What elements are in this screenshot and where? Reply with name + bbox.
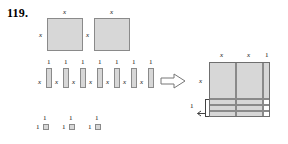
assembled-column-label: x xyxy=(247,52,250,59)
x-squared-tile-top-label: x xyxy=(110,9,113,16)
x-tile-side-label: x xyxy=(55,79,58,86)
x-squared-tile xyxy=(47,18,83,51)
x-tile xyxy=(148,68,154,88)
x-tile xyxy=(97,68,103,88)
bracket-label: 1 xyxy=(190,103,194,110)
x-tile-top-label: 1 xyxy=(132,59,136,66)
unit-tile-top-label: 1 xyxy=(43,115,47,122)
x-squared-tile-side-label: x xyxy=(86,32,89,39)
x-tile-top-label: 1 xyxy=(115,59,119,66)
x-tile xyxy=(46,68,52,88)
x-tile-side-label: x xyxy=(89,79,92,86)
x-tile xyxy=(80,68,86,88)
x-tile-side-label: x xyxy=(140,79,143,86)
x-tile-top-label: 1 xyxy=(81,59,85,66)
assembled-row-label: x xyxy=(199,78,202,85)
x-tile-top-label: 1 xyxy=(98,59,102,66)
x-squared-tile xyxy=(94,18,130,51)
assembled-rectangle: x x 1 x 1 xyxy=(209,62,277,120)
x-tile xyxy=(114,68,120,88)
x-squared-tile-top-label: x xyxy=(63,9,66,16)
unit-tile-top-label: 1 xyxy=(95,115,99,122)
x-tile-side-label: x xyxy=(123,79,126,86)
unit-tile-side-label: 1 xyxy=(62,124,66,131)
x-tile xyxy=(63,68,69,88)
x-tile-top-label: 1 xyxy=(64,59,68,66)
right-arrow-icon xyxy=(160,73,186,93)
figure-canvas: 119. x x x x 1 x 1 x 1 x 1 x 1 x 1 x 1 x… xyxy=(0,0,288,144)
unit-tile-top-label: 1 xyxy=(69,115,73,122)
assembled-column-label: 1 xyxy=(265,52,269,59)
x-tile-side-label: x xyxy=(38,79,41,86)
unit-tile xyxy=(69,124,75,130)
problem-number: 119. xyxy=(7,6,28,21)
x-squared-tile-side-label: x xyxy=(39,32,42,39)
unit-tile-side-label: 1 xyxy=(88,124,92,131)
x-tile-top-label: 1 xyxy=(149,59,153,66)
x-tile-top-label: 1 xyxy=(47,59,51,66)
unit-tile xyxy=(95,124,101,130)
assembled-column-label: x xyxy=(220,52,223,59)
unit-tile xyxy=(43,124,49,130)
x-tile-side-label: x xyxy=(106,79,109,86)
bracket-top-tick xyxy=(205,99,209,100)
x-tile-side-label: x xyxy=(72,79,75,86)
unit-tile-side-label: 1 xyxy=(36,124,40,131)
bracket-arrow-icon xyxy=(197,103,206,121)
x-tile xyxy=(131,68,137,88)
assembled-outline xyxy=(209,62,270,117)
